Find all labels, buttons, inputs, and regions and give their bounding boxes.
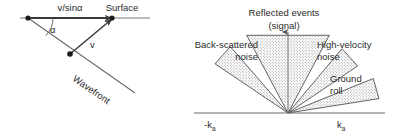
- reflected-events-label-line2: (signal): [268, 20, 299, 31]
- wavefront-svg: v/sinα Surface α v Wavefront: [0, 0, 180, 138]
- wavefront-label: Wavefront: [71, 73, 113, 107]
- angle-label: α: [50, 24, 56, 35]
- svg-text:-ka: -ka: [204, 119, 216, 132]
- back-scattered-noise-label-line1: Back-scattered: [195, 39, 258, 50]
- positive-ka-label: ka: [337, 119, 346, 132]
- velocity-label: v: [90, 39, 95, 50]
- svg-text:ka: ka: [337, 119, 346, 132]
- ground-roll-label-line1: Ground: [330, 73, 362, 84]
- fk-fan-diagram-panel: Reflected events (signal) Back-scattered…: [180, 0, 395, 138]
- wavefront-diagram-panel: v/sinα Surface α v Wavefront: [0, 0, 180, 138]
- figure-root: v/sinα Surface α v Wavefront: [0, 0, 395, 138]
- surface-label: Surface: [106, 2, 139, 13]
- negative-ka-label: -ka: [204, 119, 216, 132]
- vertex-wavefront: [67, 51, 73, 57]
- fk-fan-svg: Reflected events (signal) Back-scattered…: [180, 0, 395, 138]
- vertex-surface-tip: [109, 15, 114, 20]
- ground-roll-label-line2: roll: [330, 85, 343, 96]
- vertex-origin: [25, 15, 30, 20]
- negative-ka-subscript: a: [212, 125, 216, 132]
- apparent-velocity-label: v/sinα: [57, 2, 83, 13]
- high-velocity-noise-label-line2: noise: [317, 51, 340, 62]
- positive-ka-subscript: a: [342, 125, 346, 132]
- reflected-events-label-line1: Reflected events: [249, 7, 320, 18]
- high-velocity-noise-label-line1: High-velocity: [317, 39, 372, 50]
- back-scattered-noise-label-line2: noise: [235, 51, 258, 62]
